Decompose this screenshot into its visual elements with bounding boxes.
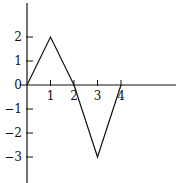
y-tick-label: −3 <box>4 150 22 164</box>
x-tick-label: 1 <box>47 89 55 103</box>
y-tick-label: 1 <box>14 54 22 68</box>
y-tick-label: 0 <box>14 78 22 92</box>
piecewise-line-chart: 1234210−1−2−3 <box>0 0 176 183</box>
y-tick-label: −2 <box>4 126 22 140</box>
y-tick-label: 2 <box>14 30 22 44</box>
x-tick-label: 2 <box>70 89 78 103</box>
tick-labels: 1234210−1−2−3 <box>4 30 125 164</box>
y-tick-label: −1 <box>4 102 22 116</box>
x-tick-label: 3 <box>94 89 102 103</box>
